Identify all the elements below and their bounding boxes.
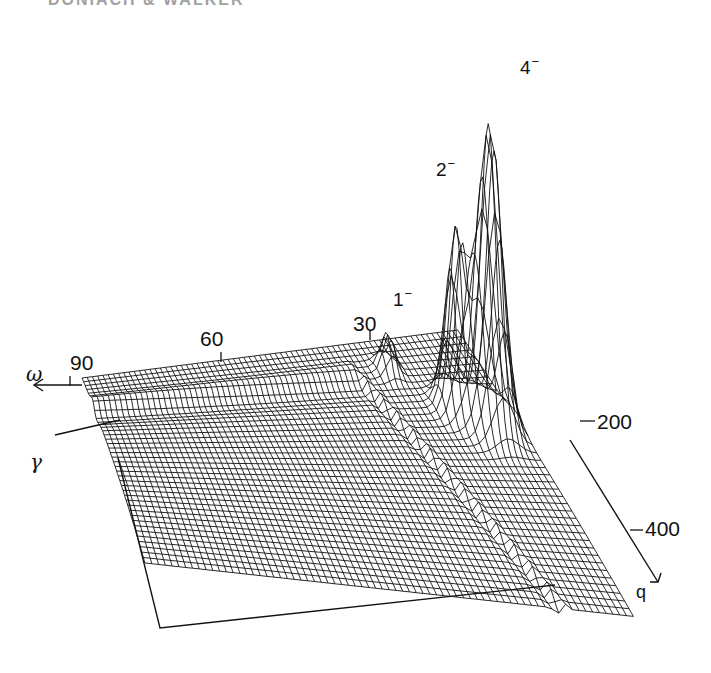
tick-label-omega-60: 60 (200, 328, 223, 349)
wireframe-mesh (82, 124, 633, 617)
peak-label-2: 2− (436, 157, 455, 179)
q-axis-label: q (636, 583, 646, 601)
peak-label-1: 1− (393, 287, 412, 309)
q-axis-arrow (570, 440, 661, 582)
gamma-label: γ (30, 452, 42, 472)
gamma-line (55, 420, 120, 435)
omega-axis-label: ω (26, 364, 42, 384)
tick-label-q-200: 200 (597, 411, 632, 432)
peak-label-4: 4− (520, 55, 539, 77)
tick-label-omega-30: 30 (353, 313, 376, 334)
tick-marks (70, 330, 643, 530)
tick-label-q-400: 400 (645, 518, 680, 539)
tick-label-omega-90: 90 (70, 352, 93, 373)
surface-plot (0, 0, 711, 673)
